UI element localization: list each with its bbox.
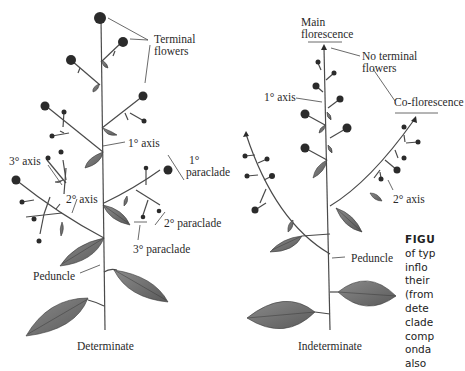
label-no-terminal-flowers: No terminal flowers <box>362 50 417 74</box>
label-2-axis-right: 2° axis <box>393 193 425 205</box>
label-peduncle-left: Peduncle <box>33 270 75 282</box>
caption-line: dete <box>405 302 465 316</box>
caption-line: onda <box>405 343 465 357</box>
label-3-paraclade: 3° paraclade <box>133 243 190 255</box>
indeterminate-leaves <box>247 112 396 329</box>
label-line: No terminal <box>362 50 417 62</box>
label-1-axis-left: 1° axis <box>128 137 160 149</box>
label-main-florescence: Main florescence <box>301 16 353 40</box>
label-terminal-flowers: Terminal flowers <box>154 33 195 57</box>
determinate-flowers <box>12 12 173 244</box>
label-line: 1° <box>186 154 230 166</box>
panel-title-indeterminate: Indeterminate <box>298 340 362 352</box>
figure-caption: FIGU of typ inflo their (from dete clade… <box>405 233 465 371</box>
panel-title-determinate: Determinate <box>77 340 134 352</box>
label-1-axis-right: 1° axis <box>264 91 296 103</box>
caption-line: also <box>405 357 465 371</box>
indeterminate-leader-lines <box>296 42 438 258</box>
caption-line: clade <box>405 316 465 330</box>
caption-line: comp <box>405 330 465 344</box>
label-line: flowers <box>362 62 417 74</box>
caption-line: inflo <box>405 261 465 275</box>
label-co-florescence: Co-florescence <box>394 96 464 108</box>
label-line: Main <box>301 16 353 28</box>
caption-line: their <box>405 274 465 288</box>
label-3-axis: 3° axis <box>9 155 41 167</box>
label-2-paraclade: 2° paraclade <box>164 217 221 229</box>
caption-line: of typ <box>405 247 465 261</box>
label-peduncle-right: Peduncle <box>351 252 393 264</box>
caption-line: (from <box>405 288 465 302</box>
label-line: Terminal <box>154 33 195 45</box>
label-1-paraclade: 1° paraclade <box>186 154 230 178</box>
label-line: florescence <box>301 28 353 40</box>
caption-title: FIGU <box>405 233 465 247</box>
label-line: flowers <box>154 45 195 57</box>
label-2-axis-left: 2° axis <box>66 193 98 205</box>
label-line: paraclade <box>186 166 230 178</box>
